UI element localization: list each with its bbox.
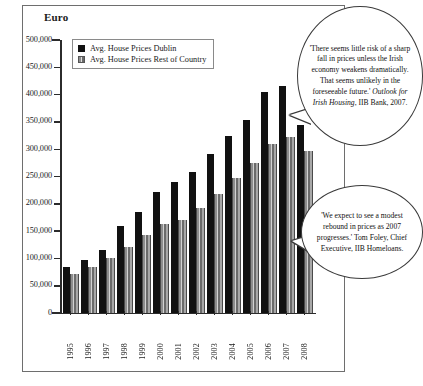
bar-dublin [171,182,178,313]
bar-rest-of-country [268,144,277,313]
x-axis-tick [88,311,89,315]
bar-dublin [189,172,196,313]
bar-dublin [261,92,268,313]
y-axis-tick [52,312,60,314]
x-axis-tick-label: 2005 [246,343,255,360]
x-axis-tick [304,311,305,315]
x-axis-tick [70,311,71,315]
y-axis-labels: 050,000100,000150,000200,000250,000300,0… [2,0,52,386]
x-axis-tick-label: 2000 [156,343,165,360]
legend-label-dublin: Avg. House Prices Dublin [90,44,177,53]
chart-legend: Avg. House Prices Dublin Avg. House Pric… [72,39,214,69]
bar-rest-of-country [160,224,169,313]
x-axis-tick [124,311,125,315]
chart-figure: Euro 050,000100,000150,000200,000250,000… [0,0,423,386]
y-axis-tick-label: 400,000 [4,89,52,98]
bar-dublin [81,260,88,313]
x-axis-tick [196,311,197,315]
bar-rest-of-country [196,208,205,313]
x-axis-tick [106,311,107,315]
bar-dublin [153,192,160,313]
x-axis-tick-label: 2001 [174,343,183,360]
y-axis-tick-label: 450,000 [4,62,52,71]
bar-dublin [207,154,214,313]
x-axis-tick [268,311,269,315]
x-axis-tick [286,311,287,315]
bar-rest-of-country [214,194,223,313]
y-axis-tick [52,39,60,41]
bar-rest-of-country [124,247,133,313]
x-axis-tick [160,311,161,315]
x-axis-tick-label: 2008 [300,343,309,360]
y-axis-tick-label: 0 [4,308,52,317]
x-axis-tick [142,311,143,315]
x-axis-tick-label: 1995 [66,343,75,360]
annotation-bubble-1: 'There seems little risk of a sharp fall… [297,6,423,146]
legend-item-rest-of-country: Avg. House Prices Rest of Country [78,54,206,65]
x-axis-tick-label: 1998 [120,343,129,360]
bar-rest-of-country [88,267,97,313]
bar-dublin [99,250,106,313]
bar-dublin [117,226,124,313]
bar-dublin [135,212,142,313]
y-axis-tick-label: 300,000 [4,144,52,153]
y-axis-tick-label: 200,000 [4,198,52,207]
y-axis-tick-label: 500,000 [4,35,52,44]
x-axis-tick [178,311,179,315]
annotation-bubble-1-text: 'There seems little risk of a sharp fall… [298,44,422,109]
annotation-bubble-2: 'We expect to see a modest rebound in pr… [301,185,423,279]
annotation-bubble-2-text: 'We expect to see a modest rebound in pr… [302,210,422,254]
x-axis-tick [232,311,233,315]
y-axis-tick-label: 150,000 [4,226,52,235]
y-axis-tick-label: 100,000 [4,253,52,262]
x-axis-tick [214,311,215,315]
x-axis-tick-label: 2002 [192,343,201,360]
bar-dublin [279,86,286,313]
legend-item-dublin: Avg. House Prices Dublin [78,43,206,54]
bar-dublin [63,267,70,313]
x-axis-tick-label: 1997 [102,343,111,360]
bar-rest-of-country [142,235,151,313]
legend-swatch-rest-icon [78,56,85,63]
bar-rest-of-country [178,220,187,313]
bar-rest-of-country [70,274,79,313]
y-axis-tick-label: 250,000 [4,171,52,180]
bar-dublin [225,136,232,313]
bar-dublin [243,120,250,313]
y-axis-tick-label: 350,000 [4,116,52,125]
legend-swatch-dublin-icon [78,45,85,52]
legend-label-rest-of-country: Avg. House Prices Rest of Country [90,55,206,64]
x-axis-tick [250,311,251,315]
x-axis-tick-label: 1999 [138,343,147,360]
bar-rest-of-country [250,163,259,313]
x-axis-tick-label: 2003 [210,343,219,360]
x-axis-tick-label: 2006 [264,343,273,360]
x-axis-tick-label: 2004 [228,343,237,360]
bar-rest-of-country [232,178,241,313]
bar-rest-of-country [106,258,115,313]
y-axis-tick-label: 50,000 [4,280,52,289]
bar-rest-of-country [286,137,295,313]
x-axis-tick-label: 2007 [282,343,291,360]
x-axis-tick-label: 1996 [84,343,93,360]
